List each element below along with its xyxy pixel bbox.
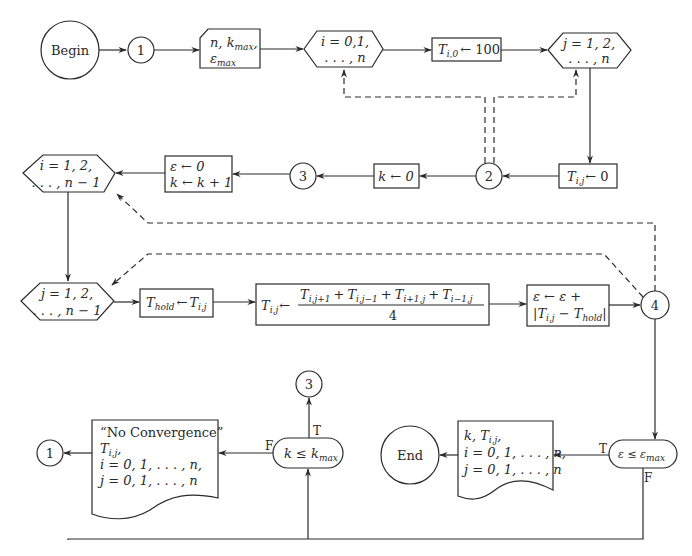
input-parameters: n, kmax, εmax [200,29,260,68]
init-k-text: k ← 0 [378,169,413,184]
reset-eps-line2: k ← k + 1 [170,175,232,190]
connector-3-bottom-label: 3 [305,377,313,392]
reset-eps-line1: ε ← 0 [170,159,204,174]
dashed-return-to-loop-j [494,70,576,163]
dashed-return-to-loop-i [344,70,485,163]
init-boundary-box: Ti,0← 100 [432,38,501,61]
connector-1-bottom-label: 1 [46,446,54,461]
connector-4: 4 [641,291,669,319]
connector-4-label: 4 [651,298,659,313]
update-denominator: 4 [389,308,397,323]
loop-j-inner: j = 1, 2, . . . , n − 1 [21,283,114,320]
init-interior-text: Ti,j← 0 [567,169,609,186]
end-label: End [397,448,423,463]
loop-i-outer-line1: i = 0,1, [321,34,369,49]
decision-eps-false-label: F [644,471,652,485]
init-interior-box: Ti,j← 0 [559,164,617,188]
no-conv-line4: j = 0, 1, . . . , n [97,473,198,488]
end-terminal: End [381,426,439,484]
accumulate-line1: ε ← ε + [533,289,581,304]
output-converged-doc: k, Ti,j, i = 0, 1, . . . , n, j = 0, 1, … [458,421,566,499]
loop-j-outer-line1: j = 1, 2, [560,36,615,51]
output-no-convergence-doc: “No Convergence” Ti,j, i = 0, 1, . . . ,… [92,420,223,519]
no-conv-line3: i = 0, 1, . . . , n, [100,457,202,472]
connector-3-mid: 3 [290,163,316,189]
no-conv-line1: “No Convergence” [100,425,223,440]
begin-terminal: Begin [41,21,99,79]
decision-k-true-label: T [313,424,321,438]
loop-i-outer-line2: . . . , n [324,50,365,65]
decision-eps-true-label: T [599,442,607,456]
loop-j-inner-line1: j = 1, 2, [38,286,93,301]
connector-3-label: 3 [299,169,307,184]
init-k-box: k ← 0 [374,164,419,188]
decision-k-false-label: F [265,439,273,453]
connector-1-bottom: 1 [37,440,63,466]
output-converged-line3: j = 0, 1, . . . , n [461,462,562,477]
loop-j-outer-line2: . . . , n [568,51,609,66]
loop-i-outer: i = 0,1, . . . , n [304,31,383,67]
hold-box: Thold←Ti,j [140,289,213,317]
loop-i-inner-line1: i = 1, 2, [40,158,92,173]
connector-1-label: 1 [137,43,145,58]
connector-1-top: 1 [128,37,154,63]
connector-3-bottom: 3 [296,371,322,397]
loop-i-inner: i = 1, 2, . . . , n − 1 [23,155,115,192]
loop-j-outer: j = 1, 2, . . . , n [548,33,631,68]
reset-eps-box: ε ← 0 k ← k + 1 [165,156,232,192]
accumulate-box: ε ← ε + |Ti,j − Thold| [527,285,609,326]
connector-2-label: 2 [485,169,493,184]
decision-eps: ε ≤ εmax T F [599,440,677,485]
connector-2: 2 [476,163,502,189]
loop-j-inner-line2: . . . , n − 1 [33,303,102,318]
loop-i-inner-line2: . . . , n − 1 [32,175,101,190]
flowchart: Begin 1 n, kmax, εmax i = 0,1, . . . , n… [0,0,692,556]
update-formula-box: Ti,j← Ti,j+1+Ti,j−1+Ti+1,j+Ti−1,j 4 [256,284,489,325]
decision-k: k ≤ kmax T F [265,424,343,468]
output-converged-line2: i = 0, 1, . . . , n, [464,445,566,460]
dashed-return-to-loop-i-inner [117,194,655,291]
begin-label: Begin [51,43,90,58]
